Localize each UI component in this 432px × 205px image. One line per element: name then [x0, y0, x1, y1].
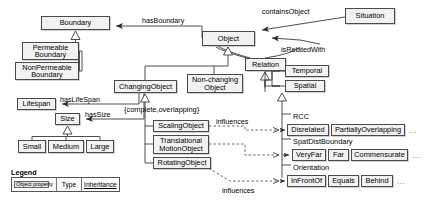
edge-label-influences_upper: influences — [216, 117, 248, 126]
class-node-infrontof[interactable]: InFrontOf — [287, 175, 326, 187]
class-node-commensurate[interactable]: Commensurate — [351, 149, 408, 161]
ellipsis-orientation-more: ... — [397, 177, 405, 186]
relation-sub-lines — [272, 71, 285, 86]
legend-inheritance-cell: Inheritance — [82, 178, 119, 191]
class-node-small[interactable]: Small — [18, 140, 46, 153]
class-node-scaling_object[interactable]: ScalingObject — [153, 120, 209, 132]
class-node-medium[interactable]: Medium — [48, 140, 84, 153]
rcc-member-line — [282, 130, 289, 181]
class-node-changing_object[interactable]: ChangingObject — [114, 80, 177, 93]
class-node-nonpermeable_boundary[interactable]: NonPermeable Boundary — [15, 62, 79, 80]
class-node-boundary[interactable]: Boundary — [41, 16, 110, 30]
ellipsis-spatdist-more: ... — [412, 151, 420, 160]
class-node-rotating_object[interactable]: RotatingObject — [153, 157, 211, 169]
object-relation-curve — [218, 46, 250, 58]
edge-label-has_boundary: hasBoundary — [142, 16, 184, 25]
legend-object-property-cell: Object property — [12, 178, 57, 191]
influences-edge-mid — [209, 144, 279, 155]
legend-type-cell: Type — [57, 178, 82, 191]
class-node-spatial[interactable]: Spatial — [285, 80, 325, 92]
group-label-spat_dist_boundary: SpatDistBoundary — [293, 137, 353, 146]
legend-object-property-label: Object property — [14, 181, 49, 188]
group-label-rcc: RCC — [293, 112, 309, 121]
edge-label-has_life_span: hasLifeSpan — [60, 95, 100, 104]
class-node-size[interactable]: Size — [55, 113, 80, 125]
class-node-large[interactable]: Large — [86, 140, 114, 153]
class-node-lifespan[interactable]: Lifespan — [17, 98, 56, 110]
class-node-temporal[interactable]: Temporal — [285, 65, 329, 77]
group-label-orientation: Orientation — [293, 163, 329, 172]
class-node-non_changing_object[interactable]: Non-changing Object — [187, 74, 243, 93]
inheritance-size — [32, 126, 100, 140]
influences-edge-upper — [209, 126, 279, 130]
class-node-object[interactable]: Object — [202, 31, 255, 46]
class-node-disrelated[interactable]: Disrelated — [287, 124, 329, 136]
class-node-relation[interactable]: Relation — [245, 58, 286, 71]
ellipsis-rcc-more: ... — [409, 126, 417, 135]
inheritance-relation — [261, 70, 281, 92]
legend-box: Object property Type Inheritance — [11, 177, 120, 192]
contains-object-edge — [262, 17, 345, 30]
class-node-partially_overlapping[interactable]: PartiallyOverlapping — [331, 124, 405, 136]
class-node-permeable_boundary[interactable]: Permeable Boundary — [22, 42, 79, 60]
edge-label-influences_lower: influences — [222, 186, 254, 195]
group-label-constraint_changing: {complete,overlapping} — [124, 105, 199, 114]
class-node-situation[interactable]: Situation — [345, 8, 395, 24]
class-node-far[interactable]: Far — [328, 149, 349, 161]
class-node-veryfar[interactable]: VeryFar — [292, 149, 326, 161]
edge-label-contains_object: containsObject — [262, 7, 310, 16]
class-node-equals[interactable]: Equals — [328, 175, 359, 187]
edge-label-is_related_with: isRelatedWith — [281, 45, 325, 54]
has-boundary-edge — [116, 26, 202, 38]
edge-label-has_size: hasSize — [85, 110, 111, 119]
class-node-translational_motion_object[interactable]: Translational MotionObject — [153, 135, 209, 154]
class-node-behind[interactable]: Behind — [361, 175, 393, 187]
legend-title: Legend — [11, 168, 37, 177]
influences-edge-lower — [205, 166, 279, 181]
